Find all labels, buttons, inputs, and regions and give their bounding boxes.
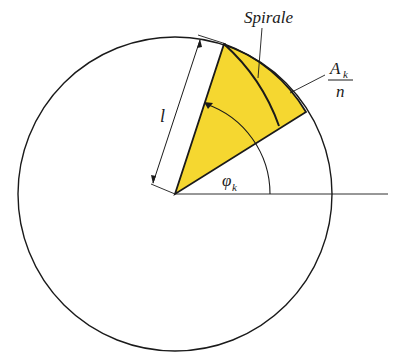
diagram-canvas: Spirale l φ k A k n bbox=[0, 0, 403, 364]
angle-label: φ bbox=[222, 171, 231, 190]
length-extension-bottom bbox=[151, 184, 175, 194]
area-denominator: n bbox=[336, 82, 345, 101]
diagram-svg: Spirale l φ k A k n bbox=[0, 0, 403, 364]
area-numerator: A bbox=[329, 59, 341, 78]
spiral-label: Spirale bbox=[244, 8, 294, 27]
area-numerator-subscript: k bbox=[343, 68, 349, 80]
length-arrowhead-bottom-icon bbox=[151, 175, 156, 184]
angle-subscript: k bbox=[232, 181, 238, 193]
yellow-sector bbox=[175, 44, 306, 194]
length-label: l bbox=[160, 106, 165, 126]
area-leader bbox=[290, 75, 325, 93]
